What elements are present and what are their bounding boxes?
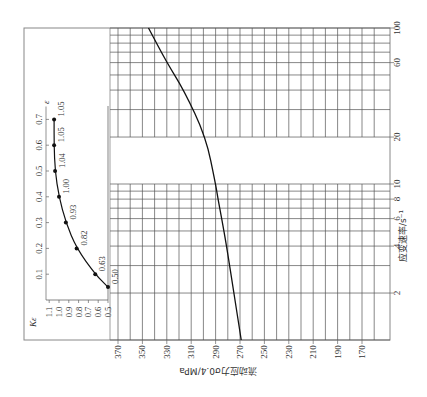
- k-epsilon-tick-label: 0.6: [93, 307, 103, 318]
- flow-stress-tick-label: 370: [113, 345, 123, 359]
- k-epsilon-tick-label: 0.8: [74, 307, 84, 318]
- point-value-label: 1.05: [56, 102, 66, 117]
- epsilon-tick-label: 0.5: [34, 166, 44, 177]
- k-epsilon-tick-label: 0.7: [83, 307, 93, 318]
- flow-stress-tick-label: 230: [284, 345, 294, 359]
- epsilon-axis-label: ε: [41, 100, 51, 104]
- strain-rate-tick-label: 8: [392, 196, 402, 201]
- epsilon-tick-label: 0.3: [34, 217, 44, 228]
- strain-rate-tick-label: 60: [392, 58, 402, 68]
- data-point: [52, 117, 56, 121]
- k-epsilon-axis-label: Kε: [28, 317, 38, 328]
- flow-stress-tick-label: 270: [235, 345, 245, 359]
- main-chart-grid: [110, 28, 390, 340]
- strain-rate-axis-title: 应变速率/s⁻¹: [397, 210, 408, 262]
- point-value-label: 0.82: [79, 231, 89, 246]
- strain-rate-tick-label: 100: [392, 21, 402, 35]
- point-value-label: 1.00: [61, 179, 71, 194]
- epsilon-tick-label: 0.6: [34, 140, 44, 151]
- point-value-label: 1.05: [56, 127, 66, 142]
- flow-stress-tick-label: 290: [211, 345, 221, 359]
- flow-stress-axis-title: 流动应力σ0.4/MPa: [179, 366, 256, 377]
- data-point: [75, 246, 79, 250]
- flow-stress-tick-label: 190: [333, 345, 343, 359]
- k-epsilon-tick-label: 1.0: [54, 307, 64, 318]
- figure: 2468102060100 37035033031029027025023021…: [0, 0, 427, 397]
- flow-stress-tick-label: 330: [162, 345, 172, 359]
- flow-stress-tick-label: 250: [259, 345, 269, 359]
- flow-stress-tick-label: 170: [357, 345, 367, 359]
- flow-stress-tick-label: 310: [186, 345, 196, 359]
- epsilon-tick-label: 0.1: [34, 269, 44, 280]
- point-value-label: 0.50: [110, 269, 120, 284]
- data-point: [57, 195, 61, 199]
- flow-stress-tick-label: 350: [137, 345, 147, 359]
- data-point: [64, 221, 68, 225]
- k-epsilon-tick-label: 0.9: [64, 307, 74, 318]
- flow-stress-tick-label: 210: [308, 345, 318, 359]
- epsilon-tick-label: 0.7: [34, 114, 44, 125]
- point-value-label: 1.04: [57, 152, 67, 168]
- strain-rate-tick-label: 10: [392, 179, 402, 189]
- point-value-label: 0.93: [68, 205, 78, 220]
- strain-rate-tick-label: 20: [392, 132, 402, 142]
- point-value-label: 0.63: [97, 256, 107, 271]
- data-point: [52, 143, 56, 147]
- epsilon-tick-label: 0.2: [34, 243, 44, 254]
- k-epsilon-tick-label: 1.1: [44, 307, 54, 318]
- k-epsilon-tick-label: 0.5: [103, 307, 113, 318]
- strain-rate-tick-label: 2: [392, 291, 402, 296]
- data-point: [106, 285, 110, 289]
- data-point: [53, 169, 57, 173]
- data-point: [93, 272, 97, 276]
- epsilon-tick-label: 0.4: [34, 191, 44, 202]
- flow-stress-ticks: 370350330310290270250230210190170: [113, 340, 367, 359]
